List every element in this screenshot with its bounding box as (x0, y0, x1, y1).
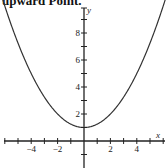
y-tick-label: 2 (76, 109, 81, 119)
y-tick-label: 6 (76, 55, 81, 65)
x-axis-label: x (155, 130, 160, 140)
y-axis-label: y (86, 5, 91, 15)
x-tick-label: 4 (135, 144, 140, 154)
x-tick-label: −4 (26, 144, 36, 154)
parabola-plot: −4−2242468 x y (0, 0, 168, 168)
x-tick-label: −2 (53, 144, 63, 154)
y-tick-label: 8 (76, 28, 81, 38)
y-tick-label: 4 (76, 82, 81, 92)
x-tick-label: 2 (108, 144, 113, 154)
